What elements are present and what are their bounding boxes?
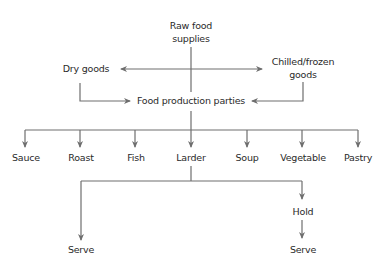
node-hold: Hold xyxy=(293,205,314,218)
node-vegetable: Vegetable xyxy=(280,151,326,164)
node-dry-goods: Dry goods xyxy=(63,62,110,75)
chilled-label-line1: Chilled/frozen xyxy=(272,55,335,68)
node-serve-right: Serve xyxy=(290,243,316,256)
node-raw-food-supplies: Raw food supplies xyxy=(170,19,212,45)
node-serve-left: Serve xyxy=(68,243,94,256)
node-larder: Larder xyxy=(176,151,205,164)
node-chilled-frozen-goods: Chilled/frozen goods xyxy=(272,55,335,81)
node-fish: Fish xyxy=(127,151,145,164)
raw-label-line1: Raw food xyxy=(170,19,212,32)
arrow-dry-to-parties xyxy=(80,83,130,101)
raw-label-line2: supplies xyxy=(170,32,212,45)
node-food-production-parties: Food production parties xyxy=(137,94,245,107)
node-soup: Soup xyxy=(235,151,258,164)
node-roast: Roast xyxy=(68,151,93,164)
arrow-chilled-to-parties xyxy=(252,82,303,101)
node-pastry: Pastry xyxy=(344,151,372,164)
node-sauce: Sauce xyxy=(12,151,40,164)
chilled-label-line2: goods xyxy=(272,68,335,81)
